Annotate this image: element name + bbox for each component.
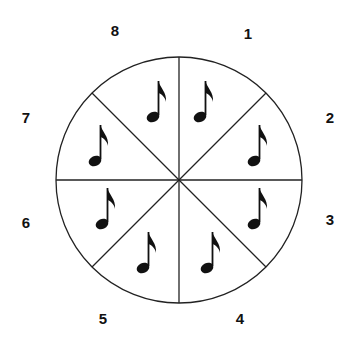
eighth-note-icon bbox=[87, 122, 117, 168]
segment-label-5: 5 bbox=[99, 310, 107, 327]
eighth-note-icon bbox=[94, 185, 124, 231]
eighth-note-icon bbox=[246, 185, 276, 231]
segment-label-8: 8 bbox=[111, 22, 119, 39]
segment-label-3: 3 bbox=[326, 211, 334, 228]
segment-label-4: 4 bbox=[236, 310, 244, 327]
segment-label-7: 7 bbox=[22, 109, 30, 126]
eighth-note-icon bbox=[199, 229, 229, 275]
segment-label-1: 1 bbox=[244, 25, 252, 42]
eighth-note-icon bbox=[246, 122, 276, 168]
eighth-note-icon bbox=[145, 78, 175, 124]
eighth-note-icon bbox=[192, 78, 222, 124]
segment-label-2: 2 bbox=[326, 109, 334, 126]
segment-label-6: 6 bbox=[22, 214, 30, 231]
eighth-note-icon bbox=[135, 229, 165, 275]
segmented-circle bbox=[0, 0, 364, 347]
